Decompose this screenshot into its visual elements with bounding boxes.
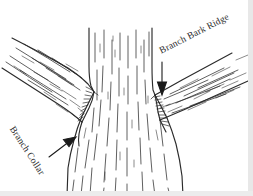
right-branch: [155, 53, 248, 132]
tree-branch-diagram: .ln { fill:none; stroke:#2b2b2b; stroke-…: [0, 0, 253, 196]
bottom-edge-strip: [0, 191, 253, 196]
right-branch-texture: [164, 68, 240, 113]
right-edge-strip: [248, 0, 253, 196]
diagram-drawing: .ln { fill:none; stroke:#2b2b2b; stroke-…: [0, 0, 253, 196]
